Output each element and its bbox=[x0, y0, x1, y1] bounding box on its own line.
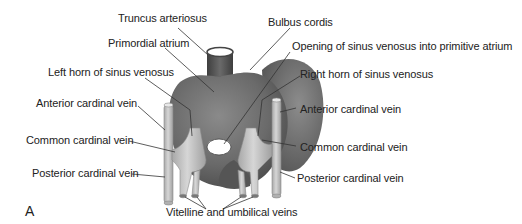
label-common-cardinal-vein-left: Common cardinal vein bbox=[26, 134, 133, 146]
label-truncus-arteriosus: Truncus arteriosus bbox=[118, 12, 207, 24]
label-vitelline-umbilical-veins: Vitelline and umbilical veins bbox=[166, 206, 297, 218]
panel-letter: A bbox=[25, 203, 34, 219]
label-common-cardinal-vein-right: Common cardinal vein bbox=[300, 141, 407, 153]
label-posterior-cardinal-vein-right: Posterior cardinal vein bbox=[297, 172, 404, 184]
label-left-horn-sinus-venosus: Left horn of sinus venosus bbox=[48, 66, 174, 78]
label-anterior-cardinal-vein-right: Anterior cardinal vein bbox=[300, 103, 401, 115]
label-right-horn-sinus-venosus: Right horn of sinus venosus bbox=[300, 68, 433, 80]
label-primordial-atrium: Primordial atrium bbox=[108, 37, 189, 49]
label-opening-sinus-venosus: Opening of sinus venosus into primitive … bbox=[292, 40, 512, 52]
label-posterior-cardinal-vein-left: Posterior cardinal vein bbox=[32, 167, 139, 179]
sinus-venosus-opening bbox=[207, 139, 231, 155]
label-anterior-cardinal-vein-left: Anterior cardinal vein bbox=[36, 97, 137, 109]
heart-diagram bbox=[0, 0, 522, 224]
label-bulbus-cordis: Bulbus cordis bbox=[268, 16, 333, 28]
